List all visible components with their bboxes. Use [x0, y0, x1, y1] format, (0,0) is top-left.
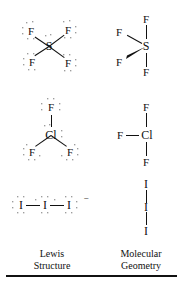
sf4-f-tl-dot: [26, 22, 27, 23]
caption-lewis-line2: Structure: [34, 260, 71, 272]
clf3-geom-bond-bottom: [146, 142, 147, 156]
clf3-f-bl-dot: [23, 148, 24, 149]
clf3-f-bl-dot: [26, 144, 27, 145]
clf3-f-br-dot: [74, 144, 75, 145]
i3-lewis-left-atom: I: [19, 199, 23, 211]
clf3-f-bl-dot: [28, 159, 29, 160]
sf4-f-bl-dot: [23, 58, 24, 59]
caption-molecular-geometry: Molecular Geometry: [120, 248, 161, 272]
i3-center-dot: [41, 212, 42, 213]
i3-center-dot: [47, 196, 48, 197]
clf3-f-top-dot: [59, 103, 60, 104]
clf3-f-top-dot: [59, 109, 60, 110]
lewis-structure-geometry-figure: S F F F: [0, 0, 183, 290]
sf4-f-tl-dot: [22, 27, 23, 28]
sf4-geom-bond-axial-top: [146, 25, 147, 39]
caption-geometry-line1: Molecular: [120, 248, 161, 260]
sf4-geom-bond-equatorial-line: [127, 35, 142, 44]
i3-lewis-right-atom: I: [67, 199, 71, 211]
i3-lewis-charge: −: [83, 194, 88, 203]
sf4-f-br-dot: [64, 70, 65, 71]
sf4-f-bl-dot: [34, 69, 35, 70]
sf4-geom-center-atom: S: [143, 40, 150, 52]
caption-lewis-structure: Lewis Structure: [34, 248, 71, 272]
i3-geom-bottom-atom: I: [144, 225, 148, 237]
clf3-bond-cl-f-top: [51, 115, 52, 127]
clf3-lewis-f-top: F: [48, 102, 54, 113]
clf3-geom-bond-left: [126, 135, 139, 136]
i3-right-dot: [76, 207, 77, 208]
sf4-f-tr-dot: [75, 26, 76, 27]
clf3-f-top-dot: [47, 98, 48, 99]
sf4-lone-pair-dot: [45, 35, 46, 36]
i3-geom-center-atom: I: [144, 201, 148, 213]
clf3-lewis-f-bottom-left: F: [29, 147, 35, 158]
i3-left-dot: [12, 207, 13, 208]
caption-lewis-line1: Lewis: [34, 248, 71, 260]
figure-bottom-rule: [6, 275, 177, 277]
clf3-geom-f-top: F: [143, 102, 149, 113]
sf4-f-tr-dot: [63, 21, 64, 22]
i3-center-dot: [54, 199, 55, 200]
sf4-lewis-center-atom: S: [46, 40, 53, 52]
caption-geometry-line2: Geometry: [120, 260, 161, 272]
clf3-f-bl-dot: [23, 154, 24, 155]
i3-lewis-center-atom: I: [43, 199, 47, 211]
clf3-lone-pair-dot: [61, 136, 62, 137]
i3-bond-left: [26, 205, 40, 206]
clf3-f-bl-dot: [39, 155, 40, 156]
i3-right-dot: [65, 212, 66, 213]
clf3-geom-f-bottom: F: [143, 157, 149, 168]
sf4-f-bl-dot: [28, 69, 29, 70]
sf4-f-br-dot: [75, 65, 76, 66]
sf4-f-tl-dot: [22, 33, 23, 34]
i3-left-dot: [12, 201, 13, 202]
sf4-geom-f-left: F: [116, 27, 122, 38]
clf3-geom-center-atom: Cl: [141, 129, 152, 141]
sf4-f-br-dot: [69, 54, 70, 55]
clf3-f-br-dot: [77, 148, 78, 149]
sf4-f-tr-dot: [64, 37, 65, 38]
i3-left-dot: [17, 212, 18, 213]
sf4-f-tl-dot: [33, 38, 34, 39]
clf3-f-br-dot: [61, 155, 62, 156]
i3-geom-top-atom: I: [144, 178, 148, 190]
clf3-geom-bond-top: [146, 113, 147, 127]
clf3-f-bl-dot: [34, 159, 35, 160]
clf3-lone-pair-dot: [61, 130, 62, 131]
i3-left-dot: [23, 196, 24, 197]
sf4-geom-f-bottom: F: [143, 67, 149, 78]
i3-bond-right: [50, 205, 64, 206]
clf3-lewis-center-atom: Cl: [45, 129, 56, 141]
i3-center-dot: [35, 199, 36, 200]
sf4-lewis-f-bottom-left: F: [29, 57, 35, 68]
sf4-lewis-f-bottom-right: F: [65, 58, 71, 69]
clf3-geom-f-left: F: [117, 130, 123, 141]
sf4-lewis-f-top-left: F: [28, 26, 34, 37]
i3-center-dot: [47, 212, 48, 213]
i3-right-dot: [71, 196, 72, 197]
sf4-geom-f-top: F: [143, 14, 149, 25]
clf3-f-br-dot: [66, 159, 67, 160]
sf4-f-tl-dot: [27, 38, 28, 39]
clf3-f-top-dot: [53, 98, 54, 99]
sf4-f-bl-dot: [23, 64, 24, 65]
sf4-f-tr-dot: [70, 37, 71, 38]
sf4-f-br-dot: [75, 59, 76, 60]
clf3-lone-pair-dot: [44, 125, 45, 126]
clf3-f-br-dot: [72, 159, 73, 160]
clf3-f-top-dot: [41, 103, 42, 104]
sf4-geom-f-wedge: F: [116, 57, 122, 68]
i3-left-dot: [23, 212, 24, 213]
sf4-f-tl-dot: [32, 21, 33, 22]
clf3-f-br-dot: [77, 154, 78, 155]
clf3-lewis-f-bottom-right: F: [67, 147, 73, 158]
sf4-lewis-f-top-right: F: [65, 25, 71, 36]
sf4-f-br-dot: [70, 70, 71, 71]
clf3-f-top-dot: [41, 109, 42, 110]
i3-right-dot: [76, 201, 77, 202]
sf4-f-tr-dot: [75, 32, 76, 33]
sf4-f-bl-dot: [27, 53, 28, 54]
i3-right-dot: [71, 212, 72, 213]
sf4-lone-pair-dot: [50, 34, 51, 35]
